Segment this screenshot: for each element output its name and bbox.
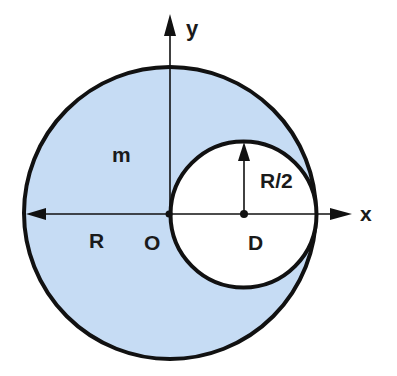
- disk-with-hole-diagram: y x m R R/2 O D: [0, 0, 397, 376]
- y-axis-label: y: [186, 16, 199, 41]
- hole-center-label: D: [248, 231, 263, 254]
- y-axis-arrowhead: [164, 14, 176, 36]
- mass-label: m: [112, 143, 131, 166]
- x-axis-label: x: [360, 202, 372, 225]
- x-axis-arrowhead: [330, 208, 352, 220]
- hole-center-point: [240, 210, 248, 218]
- origin-label: O: [144, 231, 160, 254]
- origin-point: [166, 211, 173, 218]
- radius-R-label: R: [89, 229, 104, 252]
- radius-half-R-label: R/2: [260, 169, 293, 192]
